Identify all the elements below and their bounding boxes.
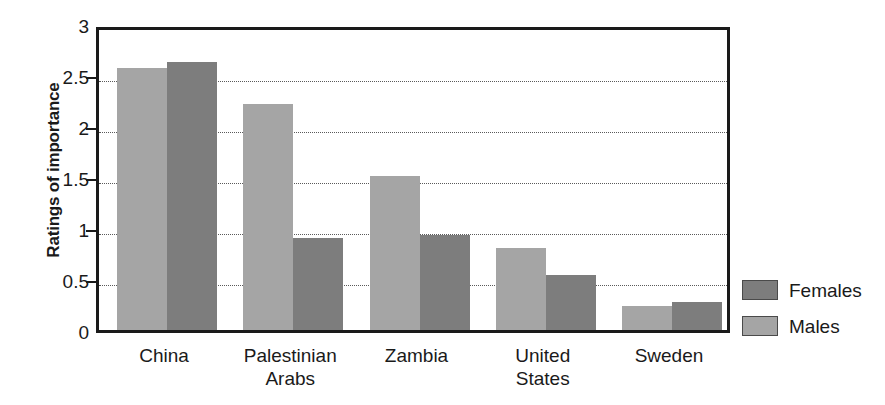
bar-group xyxy=(496,30,596,330)
bar-chart-figure: Ratings of importance 00.511.522.53 Chin… xyxy=(0,0,885,405)
bar-female xyxy=(167,62,217,330)
bar-group xyxy=(622,30,722,330)
plot-area xyxy=(96,27,730,333)
y-axis-tick-mark xyxy=(86,230,96,232)
bar-female xyxy=(672,302,722,330)
y-axis-title: Ratings of importance xyxy=(44,20,64,320)
legend-item: Males xyxy=(742,311,862,341)
bar-group xyxy=(370,30,470,330)
legend-item: Females xyxy=(742,275,862,305)
bar-female xyxy=(293,238,343,330)
chart-legend: FemalesMales xyxy=(742,275,862,347)
bar-female xyxy=(420,235,470,330)
y-axis-tick-label: 0 xyxy=(78,323,89,342)
legend-swatch xyxy=(742,280,778,300)
y-axis-tick-mark xyxy=(86,281,96,283)
bar-male xyxy=(243,104,293,331)
legend-label: Females xyxy=(789,281,862,300)
y-axis-tick-mark xyxy=(86,77,96,79)
x-axis-category-label: Sweden xyxy=(594,344,744,367)
bar-group xyxy=(243,30,343,330)
legend-swatch xyxy=(742,316,778,336)
bar-female xyxy=(546,275,596,330)
bar-male xyxy=(622,306,672,330)
legend-label: Males xyxy=(789,317,840,336)
bar-male xyxy=(370,176,420,330)
bar-male xyxy=(496,248,546,330)
bar-male xyxy=(117,68,167,330)
y-axis-tick-label: 3 xyxy=(78,17,89,36)
bar-group xyxy=(117,30,217,330)
y-axis-tick-mark xyxy=(86,179,96,181)
y-axis-tick-mark xyxy=(86,128,96,130)
